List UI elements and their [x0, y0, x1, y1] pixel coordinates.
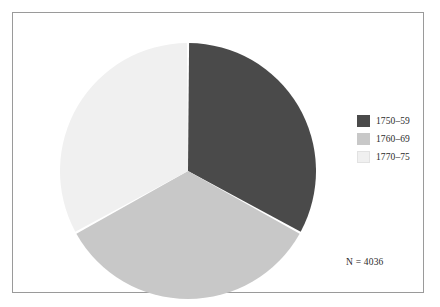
- legend-swatch-1760-69: [357, 133, 370, 145]
- legend-label-1750-59: 1750–59: [376, 115, 410, 127]
- figure-frame: 1750–59 1760–69 1770–75 N = 4036: [12, 12, 424, 293]
- pie-chart: [58, 41, 318, 301]
- sample-size-annotation: N = 4036: [346, 257, 384, 267]
- legend: 1750–59 1760–69 1770–75: [357, 112, 431, 166]
- legend-label-1760-69: 1760–69: [376, 133, 410, 145]
- legend-label-1770-75: 1770–75: [376, 151, 410, 163]
- legend-swatch-1750-59: [357, 115, 370, 127]
- legend-item[interactable]: 1760–69: [357, 130, 431, 148]
- pie-slice-group: [60, 43, 316, 299]
- pie-chart-figure: 1750–59 1760–69 1770–75 N = 4036: [0, 0, 440, 307]
- legend-swatch-1770-75: [357, 151, 370, 163]
- pie-svg: [58, 41, 318, 301]
- legend-item[interactable]: 1750–59: [357, 112, 431, 130]
- legend-item[interactable]: 1770–75: [357, 148, 431, 166]
